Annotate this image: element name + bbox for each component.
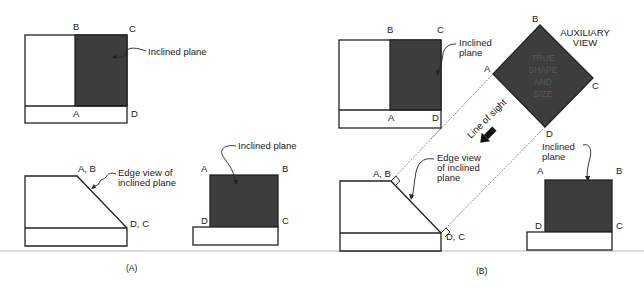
inclined-plane-surface xyxy=(75,35,127,106)
vertex-label-b: B xyxy=(387,24,393,35)
callout-line-3: plane xyxy=(437,172,460,183)
auxiliary-view: B C D A TRUE SHAPE AND SIZE AUXILIARY VI… xyxy=(484,13,610,139)
vertex-label-d: D xyxy=(546,128,553,139)
vertex-label-dc: D, C xyxy=(446,231,465,242)
vertex-label-a: A xyxy=(73,108,80,119)
panel-a-side-view: A B D C Inclined plane xyxy=(193,140,297,245)
inclined-plane-surface xyxy=(545,180,612,232)
vertex-label-dc: D, C xyxy=(130,218,149,229)
true-shape-text-4: SIZE xyxy=(534,89,553,99)
panel-a-top-view: B C A D Inclined plane xyxy=(25,21,207,123)
callout-line-2: plane xyxy=(542,151,565,162)
vertex-label-c: C xyxy=(616,220,623,231)
vertex-label-a: A xyxy=(201,163,208,174)
figure-canvas: B C A D Inclined plane A, B D, C Edge vi… xyxy=(0,0,644,290)
panel-b: B C A D Inclined plane B C D A TRUE SHAP… xyxy=(339,13,623,276)
vertex-label-b: B xyxy=(282,163,288,174)
vertex-label-c: C xyxy=(282,215,289,226)
callout-line-2: plane xyxy=(459,47,482,58)
true-shape-text-3: AND xyxy=(534,77,552,87)
vertex-label-d: D xyxy=(535,220,542,231)
vertex-label-a: A xyxy=(388,112,395,123)
callout-inclined-plane: Inclined plane xyxy=(148,46,207,57)
vertex-label-b: B xyxy=(616,165,622,176)
vertex-label-b: B xyxy=(73,21,79,32)
base-block xyxy=(527,232,612,250)
vertex-label-c: C xyxy=(129,23,136,34)
vertex-label-c: C xyxy=(437,24,444,35)
callout-leader xyxy=(412,159,434,198)
caption-b: (B) xyxy=(476,266,488,276)
panel-a-front-view: A, B D, C Edge view of inclined plane xyxy=(25,163,176,246)
true-shape-text-1: TRUE xyxy=(531,53,554,63)
front-view-outline xyxy=(25,176,127,246)
auxiliary-view-title-2: VIEW xyxy=(573,37,597,48)
panel-b-top-view: B C A D Inclined plane xyxy=(339,24,492,128)
panel-b-side-view: A B D C Inclined plane xyxy=(527,141,623,250)
panel-a: B C A D Inclined plane A, B D, C Edge vi… xyxy=(25,21,297,273)
inclined-plane-surface xyxy=(210,175,278,227)
vertex-label-d: D xyxy=(201,215,208,226)
caption-a: (A) xyxy=(126,263,138,273)
arrowhead-icon xyxy=(91,184,96,189)
vertex-label-a: A xyxy=(484,63,491,74)
base-block xyxy=(193,227,278,245)
panel-b-front-view: A, B D, C Edge view of inclined plane xyxy=(340,152,481,251)
front-view-outline xyxy=(340,181,441,251)
vertex-label-ab: A, B xyxy=(78,163,96,174)
vertex-label-a: A xyxy=(537,165,544,176)
vertex-label-c: C xyxy=(592,80,599,91)
vertex-label-d: D xyxy=(131,108,138,119)
callout-line-2: inclined plane xyxy=(118,177,176,188)
callout-leader xyxy=(92,173,116,188)
inclined-plane-surface xyxy=(390,40,441,110)
vertex-label-ab: A, B xyxy=(373,168,391,179)
true-shape-text-2: SHAPE xyxy=(529,65,558,75)
callout-leader xyxy=(583,145,591,180)
projection-line-short xyxy=(430,128,441,140)
vertex-label-d: D xyxy=(432,112,439,123)
callout-inclined-plane: Inclined plane xyxy=(238,140,297,151)
arrowhead-icon xyxy=(409,194,414,200)
vertex-label-b: B xyxy=(532,13,538,24)
line-of-sight: Line of sight xyxy=(465,96,509,147)
